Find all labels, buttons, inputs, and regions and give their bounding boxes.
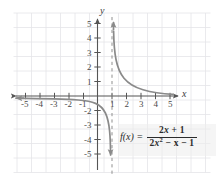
formula-function-name: f(x)	[120, 132, 134, 142]
y-tick-label-neg4: -4	[84, 136, 92, 145]
y-tick-label-3: 3	[87, 49, 92, 58]
formula-equals: =	[137, 132, 143, 142]
x-axis-label: x	[182, 89, 186, 99]
y-tick-label-5: 5	[87, 20, 92, 29]
x-tick-label-5: 5	[168, 100, 173, 109]
function-formula: f(x) = 2x + 1 2x2 − x − 1	[120, 126, 197, 148]
x-tick-label-4: 4	[154, 100, 159, 109]
numerator-tail: + 1	[169, 125, 185, 135]
denominator-tail: − x − 1	[163, 138, 194, 148]
y-tick-label-neg2: -2	[84, 107, 92, 116]
formula-fraction: 2x + 1 2x2 − x − 1	[147, 126, 198, 148]
x-tick-label-3: 3	[139, 100, 144, 109]
curve-right-branch	[114, 31, 173, 94]
y-tick-label-4: 4	[87, 34, 92, 43]
y-tick-label-1: 1	[87, 78, 92, 87]
x-tick-label-neg3: -3	[50, 100, 58, 109]
plot-canvas	[0, 0, 222, 187]
x-tick-label-neg4: -4	[36, 100, 44, 109]
y-tick-label-neg5: -5	[84, 150, 92, 159]
rational-function-graph-figure: -5 -4 -3 -2 -1 1 2 3 4 5 5 4 3 2 1 -2 -3…	[0, 0, 222, 187]
y-tick-label-neg3: -3	[84, 121, 92, 130]
x-tick-label-1: 1	[110, 100, 115, 109]
x-tick-label-2: 2	[125, 100, 130, 109]
curve-left-branch	[16, 98, 111, 155]
y-axis-label: y	[100, 6, 104, 16]
x-tick-label-neg2: -2	[65, 100, 73, 109]
y-tick-label-2: 2	[87, 63, 92, 72]
x-tick-label-neg5: -5	[21, 100, 29, 109]
formula-denominator: 2x2 − x − 1	[147, 138, 198, 149]
